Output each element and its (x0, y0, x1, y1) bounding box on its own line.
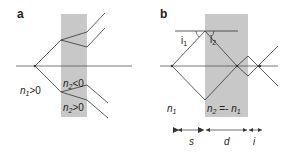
panel-a-label: a (17, 7, 24, 21)
slab-index-label: n2 =- n1 (207, 103, 241, 115)
panel-b-label: b (160, 7, 167, 21)
medium-label-a: n1>0 (20, 85, 41, 97)
angle-label-i1: i1 (181, 35, 187, 47)
medium-label-b: n1 (167, 103, 177, 115)
panel-a: a n1>0 n2<0 n2>0 (16, 7, 132, 118)
source-point-b (171, 65, 173, 67)
diagram-canvas: a n1>0 n2<0 n2>0 b i1 i2 n1 (0, 0, 294, 154)
internal-focus (236, 65, 238, 67)
slab-b (205, 14, 248, 117)
external-focus (259, 65, 261, 67)
positive-index-label: n2>0 (63, 102, 84, 114)
panel-b: b i1 i2 n1 n2 =- n1 s d i (160, 7, 278, 147)
incident-ray-upper (35, 40, 61, 66)
angle-arc-i1 (196, 31, 199, 37)
dimension-label-s: s (189, 136, 194, 147)
dimension-label-d: d (224, 136, 230, 147)
negative-index-label: n2<0 (63, 78, 84, 90)
source-point-a (34, 65, 36, 67)
dimension-label-i: i (253, 136, 256, 147)
